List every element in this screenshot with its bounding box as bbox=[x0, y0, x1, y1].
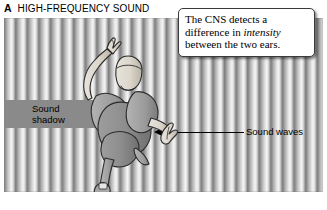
sound-shadow-label-line1: Sound bbox=[32, 103, 119, 115]
sound-waves-label: Sound waves bbox=[246, 126, 303, 137]
figure-panel-a: A HIGH-FREQUENCY SOUND Sound shadow bbox=[0, 0, 327, 210]
callout-text: The CNS detects a difference in intensit… bbox=[185, 13, 308, 51]
callout-text-part2: between the two ears. bbox=[185, 38, 280, 50]
panel-title-row: A HIGH-FREQUENCY SOUND bbox=[4, 1, 149, 15]
sound-shadow-bar: Sound shadow bbox=[4, 100, 119, 128]
callout-text-italic: intensity bbox=[243, 26, 280, 38]
callout-box: The CNS detects a difference in intensit… bbox=[178, 8, 315, 57]
sound-waves-leader-line bbox=[160, 132, 244, 133]
panel-letter: A bbox=[4, 2, 12, 14]
sound-shadow-label-line2: shadow bbox=[32, 114, 119, 126]
page-title: HIGH-FREQUENCY SOUND bbox=[18, 3, 150, 14]
